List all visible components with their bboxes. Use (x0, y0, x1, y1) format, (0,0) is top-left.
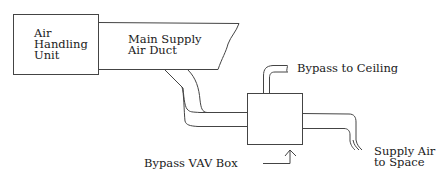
bypass-break (287, 65, 288, 73)
ahu-label-line3: Unit (34, 50, 88, 61)
main-duct-label-line2: Air Duct (128, 45, 202, 56)
supply-duct-inner (302, 129, 350, 142)
vav-pointer-arrow (263, 150, 296, 164)
vav-box (248, 94, 303, 145)
bypass-riser-inner (270, 72, 288, 93)
bypass-riser-outer (264, 66, 288, 94)
supply-air-label: Supply Air to Space (374, 146, 435, 168)
branch-duct-upper (165, 70, 247, 113)
supply-air-label-line2: to Space (374, 157, 435, 168)
bypass-label: Bypass to Ceiling (297, 63, 398, 74)
ahu-label: Air Handling Unit (34, 28, 88, 61)
branch-duct-lower (165, 70, 247, 127)
main-duct-label: Main Supply Air Duct (128, 34, 202, 56)
supply-air-flow-lines (350, 140, 362, 150)
supply-duct-outer (302, 114, 356, 141)
branch-duct-top-edge (188, 70, 207, 113)
vav-box-label: Bypass VAV Box (144, 158, 238, 169)
